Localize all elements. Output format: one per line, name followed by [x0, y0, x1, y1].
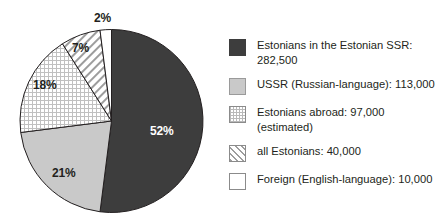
chart-legend: Estonians in the Estonian SSR:282,500USS…: [229, 38, 443, 190]
legend-item-3[interactable]: Estonians abroad: 97,000(estimated): [229, 105, 443, 134]
legend-swatch-light-gray-solid: [229, 78, 246, 95]
legend-label-1: Estonians in the Estonian SSR:282,500: [257, 38, 412, 67]
legend-swatch-dotted-grid: [229, 106, 246, 123]
legend-label-4: all Estonians: 40,000: [257, 144, 361, 159]
legend-swatch-dark-gray-solid: [229, 39, 246, 56]
legend-label-line2-3: (estimated): [257, 120, 385, 135]
legend-label-5: Foreign (English-language): 10,000: [257, 172, 432, 187]
pie-percent-label-4: 7%: [72, 41, 89, 55]
legend-swatch-white-solid: [229, 173, 246, 190]
legend-item-4[interactable]: all Estonians: 40,000: [229, 144, 443, 162]
legend-label-line2-1: 282,500: [257, 53, 412, 68]
legend-swatch-diagonal-hatch: [229, 145, 246, 162]
legend-label-2: USSR (Russian-language): 113,000: [257, 77, 435, 92]
pie-chart-area: 52%21%18%7%2%: [0, 0, 230, 224]
legend-item-2[interactable]: USSR (Russian-language): 113,000: [229, 77, 443, 95]
legend-item-1[interactable]: Estonians in the Estonian SSR:282,500: [229, 38, 443, 67]
pie-slices: [20, 30, 203, 213]
pie-chart-svg: [0, 0, 230, 224]
legend-item-5[interactable]: Foreign (English-language): 10,000: [229, 172, 443, 190]
pie-slice-1: [100, 30, 203, 213]
pie-percent-label-3: 18%: [33, 78, 56, 92]
pie-percent-label-5: 2%: [94, 11, 111, 25]
pie-percent-label-2: 21%: [52, 166, 75, 180]
pie-chart-figure: 52%21%18%7%2% Estonians in the Estonian …: [0, 0, 443, 224]
legend-label-3: Estonians abroad: 97,000(estimated): [257, 105, 385, 134]
pie-percent-label-1: 52%: [150, 124, 173, 138]
